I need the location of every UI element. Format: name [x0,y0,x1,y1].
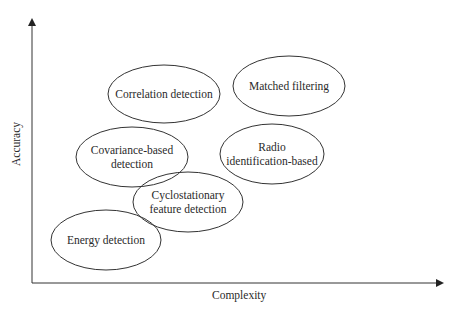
node-label-covariance: Covariance-based detection [76,143,188,171]
node-text: Energy detection [67,234,145,246]
node-label-energy: Energy detection [51,233,161,247]
node-label-correlation: Correlation detection [108,87,220,101]
x-axis-label: Complexity [212,289,266,301]
node-label-matched: Matched filtering [233,79,345,93]
node-text: identification-based [220,154,324,168]
node-text: Covariance-based [76,143,188,157]
node-text: feature detection [133,202,243,216]
node-text: detection [76,157,188,171]
node-label-radio: Radio identification-based [220,140,324,168]
node-text: Radio [220,140,324,154]
y-axis-label: Accuracy [10,119,22,169]
node-text: Cyclostationary [133,188,243,202]
node-text: Correlation detection [115,88,212,100]
node-text: Matched filtering [249,80,329,92]
node-label-cyclostationary: Cyclostationary feature detection [133,188,243,216]
